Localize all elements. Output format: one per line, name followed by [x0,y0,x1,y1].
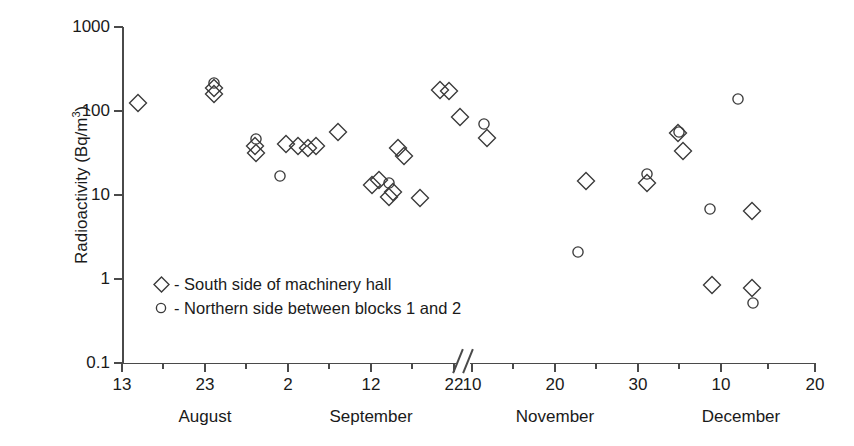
data-point-diamond [703,275,722,294]
data-point-circle [747,296,760,309]
x-tick-label: 30 [629,376,648,394]
legend-circle-icon [150,302,172,314]
legend-label: - Northern side between blocks 1 and 2 [174,299,461,317]
y-tick-label: 10 [91,186,110,203]
x-axis-line-right [470,363,816,365]
legend-row: - South side of machinery hall [150,272,461,296]
x-tick-label: 20 [546,376,565,394]
data-point-diamond [743,202,762,221]
y-tick-label: 100 [82,102,110,119]
x-tick-mark [637,363,639,372]
data-point-diamond [129,93,148,112]
chart-legend: - South side of machinery hall- Northern… [150,272,461,320]
legend-row: - Northern side between blocks 1 and 2 [150,296,461,320]
x-tick-mark [554,363,556,372]
x-tick-label: 20 [806,376,825,394]
data-point-diamond [411,189,430,208]
data-point-diamond [440,81,459,100]
x-tick-mark [121,363,123,372]
x-tick-label: 12 [362,376,381,394]
y-tick-label: 0.1 [86,354,110,371]
data-point-circle [274,169,287,182]
data-point-diamond [395,147,414,166]
x-tick-mark [204,363,206,372]
x-axis-month-label: November [516,408,594,426]
data-point-circle [250,132,263,145]
data-point-circle [673,126,686,139]
y-tick-mark [114,26,123,28]
x-tick-mark [814,363,816,372]
data-point-circle [641,167,654,180]
x-minor-tick-mark [678,363,680,369]
data-point-circle [704,202,717,215]
data-point-diamond [247,143,266,162]
data-point-diamond [451,107,470,126]
data-point-diamond [478,128,497,147]
x-minor-tick-mark [512,363,514,369]
x-tick-mark [287,363,289,372]
data-point-circle [572,245,585,258]
x-axis-line-left [122,363,456,365]
legend-label: - South side of machinery hall [174,275,391,293]
data-point-diamond [307,137,326,156]
x-tick-label: 22 [445,376,464,394]
y-axis-title-text: Radioactivity (Bq/m [72,118,91,264]
x-tick-label: 10 [463,376,482,394]
x-minor-tick-mark [162,363,164,369]
x-tick-label: 23 [196,376,215,394]
x-tick-label: 13 [113,376,132,394]
legend-diamond-icon [150,276,172,293]
data-point-diamond [743,279,762,298]
x-axis-month-label: August [179,408,232,426]
x-tick-label: 10 [712,376,731,394]
x-tick-label: 2 [283,376,292,394]
x-minor-tick-mark [767,363,769,369]
x-tick-mark [720,363,722,372]
data-point-circle [208,77,221,90]
x-tick-mark [453,363,455,372]
y-tick-label: 1 [101,270,110,287]
x-minor-tick-mark [595,363,597,369]
x-minor-tick-mark [328,363,330,369]
data-point-circle [383,176,396,189]
y-tick-mark [114,278,123,280]
y-tick-label: 1000 [72,18,110,35]
x-minor-tick-mark [411,363,413,369]
y-axis-title: Radioactivity (Bq/m3) [66,45,92,325]
x-axis-month-label: September [329,408,412,426]
x-tick-mark [370,363,372,372]
y-axis-title-exponent: 3 [70,111,82,117]
x-axis-month-label: December [702,408,780,426]
data-point-diamond [577,172,596,191]
x-tick-mark [471,363,473,372]
data-point-circle [732,92,745,105]
y-tick-mark [114,194,123,196]
y-tick-mark [114,110,123,112]
data-point-circle [478,118,491,131]
data-point-diamond [329,122,348,141]
data-point-diamond [674,142,693,161]
radioactivity-scatter-chart: Radioactivity (Bq/m3) 10001001010.1 1323… [0,0,854,446]
x-minor-tick-mark [245,363,247,369]
